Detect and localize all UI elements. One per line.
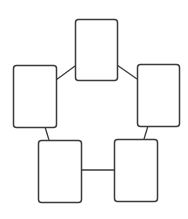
node-box xyxy=(39,141,82,203)
node-top xyxy=(76,20,118,81)
node-box xyxy=(115,140,158,202)
diagram-nodes xyxy=(14,20,180,203)
node-box xyxy=(14,66,57,128)
connector-left-to-bottom-left xyxy=(45,127,49,140)
node-box xyxy=(138,65,180,127)
cycle-diagram xyxy=(0,0,188,219)
node-left xyxy=(14,66,57,128)
node-right xyxy=(138,65,180,127)
node-box xyxy=(76,20,118,81)
connector-top-to-right xyxy=(117,65,137,79)
node-bottom-left xyxy=(39,141,82,203)
connector-right-to-bottom-right xyxy=(144,126,148,139)
node-bottom-right xyxy=(115,140,158,202)
connector-top-to-left xyxy=(56,66,75,80)
